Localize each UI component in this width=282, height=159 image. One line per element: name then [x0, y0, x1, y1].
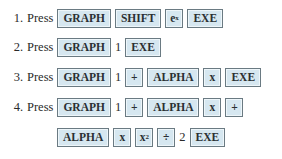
step-4-continued: ALPHA x x2 ÷ 2 EXE	[57, 126, 229, 148]
literal-digit: 1	[115, 70, 121, 85]
exp-key: ex	[165, 9, 183, 28]
step-verb: Press	[27, 100, 53, 115]
x-squared-key: x2	[135, 128, 153, 147]
alpha-key: ALPHA	[147, 68, 199, 87]
step-verb: Press	[27, 70, 53, 85]
graph-key: GRAPH	[57, 98, 111, 117]
x-key: x	[203, 68, 221, 87]
alpha-key: ALPHA	[57, 128, 109, 147]
exe-key: EXE	[125, 38, 161, 57]
x-key: x	[203, 98, 221, 117]
step-4: 4. Press GRAPH 1 + ALPHA x +	[0, 96, 247, 118]
step-number: 4.	[10, 100, 23, 115]
step-verb: Press	[27, 40, 53, 55]
step-number: 1.	[10, 11, 23, 26]
step-1: 1. Press GRAPH SHIFT ex EXE	[0, 7, 227, 29]
literal-digit: 1	[115, 100, 121, 115]
step-3: 3. Press GRAPH 1 + ALPHA x EXE	[0, 66, 265, 88]
step-number: 3.	[10, 70, 23, 85]
exe-key: EXE	[225, 68, 261, 87]
exe-key: EXE	[187, 9, 223, 28]
plus-key: +	[225, 98, 243, 117]
step-number: 2.	[10, 40, 23, 55]
x-key: x	[113, 128, 131, 147]
divide-key: ÷	[157, 128, 175, 147]
literal-digit: 2	[179, 130, 185, 145]
alpha-key: ALPHA	[147, 98, 199, 117]
plus-key: +	[125, 68, 143, 87]
step-2: 2. Press GRAPH 1 EXE	[0, 36, 165, 58]
step-verb: Press	[27, 11, 53, 26]
graph-key: GRAPH	[57, 9, 111, 28]
plus-key: +	[125, 98, 143, 117]
shift-key: SHIFT	[115, 9, 162, 28]
graph-key: GRAPH	[57, 68, 111, 87]
graph-key: GRAPH	[57, 38, 111, 57]
exe-key: EXE	[190, 128, 226, 147]
literal-digit: 1	[115, 40, 121, 55]
